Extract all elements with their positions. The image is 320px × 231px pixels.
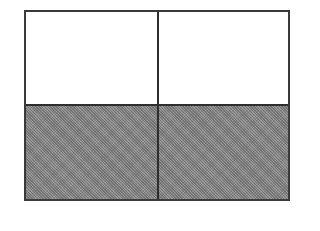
cell-top-right-unshaded xyxy=(159,12,288,106)
cell-bottom-left-shaded xyxy=(26,106,159,199)
cell-top-left-unshaded xyxy=(26,12,159,106)
fraction-grid-rectangle xyxy=(24,10,290,201)
cell-bottom-right-shaded xyxy=(159,106,288,199)
